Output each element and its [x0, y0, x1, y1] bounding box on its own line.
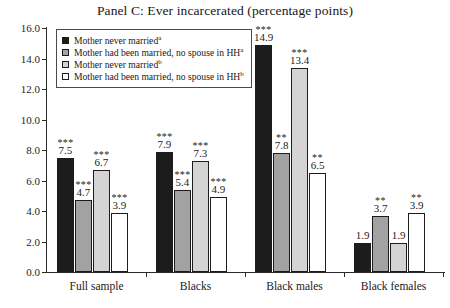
bar-annotation: 1.9	[356, 223, 370, 241]
legend-item[interactable]: Mother had been married, no spouse in HH…	[62, 71, 244, 83]
bar-column[interactable]: ***14.9	[255, 28, 272, 272]
bar-annotation: ***13.4	[290, 48, 309, 66]
bar-column[interactable]: **3.9	[408, 28, 425, 272]
bar[interactable]	[75, 200, 92, 272]
x-axis-tick-mark	[443, 272, 444, 277]
bar[interactable]	[354, 243, 371, 272]
bar-value-label: 7.8	[275, 140, 289, 151]
bar-annotation: ***6.7	[93, 150, 109, 168]
bar[interactable]	[255, 45, 272, 272]
y-axis-tick-mark	[42, 272, 47, 273]
bar-value-label: 7.3	[192, 148, 208, 159]
bar-annotation: 1.9	[392, 223, 406, 241]
x-axis-tick-mark	[245, 272, 246, 277]
bar-value-label: 6.5	[311, 160, 325, 171]
legend-swatch-icon	[62, 61, 69, 68]
bar-annotation: ***7.3	[192, 141, 208, 159]
x-axis-category-label: Full sample	[47, 280, 146, 292]
bar-value-label: 5.4	[174, 177, 190, 188]
bar[interactable]	[408, 213, 425, 272]
bar-value-label: 14.9	[254, 32, 273, 43]
legend-footnote-marker: a	[158, 34, 161, 42]
bar-annotation: **3.9	[410, 193, 424, 211]
bar-value-label: 6.7	[93, 157, 109, 168]
bar-annotation: ***4.9	[210, 177, 226, 195]
legend-item[interactable]: Mother never marrieda	[62, 35, 244, 47]
legend-label: Mother had been married, no spouse in HH…	[74, 46, 243, 58]
bar-annotation: ***5.4	[174, 170, 190, 188]
bar[interactable]	[390, 243, 407, 272]
legend-swatch-icon	[62, 49, 69, 56]
legend-item[interactable]: Mother never marriedb	[62, 59, 244, 71]
bar-column[interactable]: **6.5	[309, 28, 326, 272]
bar-value-label: 1.9	[392, 230, 406, 241]
bar-column[interactable]: **7.8	[273, 28, 290, 272]
chart-panel-c: Panel C: Ever incarcerated (percentage p…	[0, 0, 450, 308]
legend-footnote-marker: b	[240, 70, 244, 78]
bar-annotation: **6.5	[311, 153, 325, 171]
bar[interactable]	[192, 161, 209, 272]
chart-title: Panel C: Ever incarcerated (percentage p…	[0, 3, 450, 19]
legend-footnote-marker: a	[240, 46, 243, 54]
legend-item[interactable]: Mother had been married, no spouse in HH…	[62, 47, 244, 59]
bar-annotation: ***7.5	[57, 138, 73, 156]
bar[interactable]	[210, 197, 227, 272]
bar-annotation: ***14.9	[254, 25, 273, 43]
legend-label: Mother never marrieda	[74, 34, 161, 46]
legend-swatch-icon	[62, 37, 69, 44]
bar-annotation: **3.7	[374, 196, 388, 214]
bar-annotation: ***7.9	[156, 132, 172, 150]
bar[interactable]	[309, 173, 326, 272]
x-axis-tick-mark	[146, 272, 147, 277]
bar[interactable]	[291, 68, 308, 272]
bar-value-label: 4.7	[75, 187, 91, 198]
bar-value-label: 3.7	[374, 203, 388, 214]
bar-value-label: 1.9	[356, 230, 370, 241]
bar-value-label: 13.4	[290, 55, 309, 66]
x-axis-category-label: Blacks	[146, 280, 245, 292]
chart-legend: Mother never marriedaMother had been mar…	[56, 29, 252, 88]
bar-column[interactable]: 1.9	[354, 28, 371, 272]
bar-annotation: **7.8	[275, 133, 289, 151]
bar[interactable]	[174, 190, 191, 272]
bar[interactable]	[273, 153, 290, 272]
legend-footnote-marker: b	[158, 58, 162, 66]
bar-column[interactable]: 1.9	[390, 28, 407, 272]
bar-annotation: ***4.7	[75, 180, 91, 198]
bar-value-label: 3.9	[410, 200, 424, 211]
bar[interactable]	[111, 213, 128, 272]
x-axis-category-label: Black females	[344, 280, 443, 292]
x-axis-tick-mark	[344, 272, 345, 277]
bar[interactable]	[57, 158, 74, 272]
legend-label: Mother had been married, no spouse in HH…	[74, 70, 244, 82]
bar-value-label: 7.9	[156, 139, 172, 150]
bar-group: 1.9**3.71.9**3.9	[344, 28, 443, 272]
bar[interactable]	[93, 170, 110, 272]
bar-group: ***14.9**7.8***13.4**6.5	[245, 28, 344, 272]
legend-swatch-icon	[62, 73, 69, 80]
bar[interactable]	[156, 152, 173, 272]
bar-value-label: 3.9	[111, 200, 127, 211]
x-axis-category-label: Black males	[245, 280, 344, 292]
bar-annotation: ***3.9	[111, 193, 127, 211]
bar[interactable]	[372, 216, 389, 272]
bar-column[interactable]: **3.7	[372, 28, 389, 272]
bar-value-label: 4.9	[210, 184, 226, 195]
bar-value-label: 7.5	[57, 145, 73, 156]
bar-column[interactable]: ***13.4	[291, 28, 308, 272]
legend-label: Mother never marriedb	[74, 58, 162, 70]
